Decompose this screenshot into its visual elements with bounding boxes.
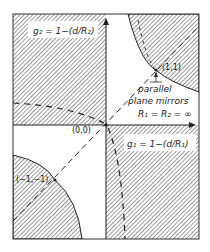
- unstable-region-bottom-left: [13, 155, 82, 239]
- pos-one-label: (1,1): [162, 63, 181, 72]
- point-origin: [104, 123, 107, 126]
- annotation-line2: plane mirrors: [127, 96, 189, 106]
- unstable-region-top-right: [128, 14, 199, 92]
- stability-diagram: g₂ = 1−(d/R₂) g₁ = 1−(d/R₁) (0,0) (1,1) …: [0, 0, 210, 252]
- annotation-line1: parallel: [137, 84, 172, 94]
- neg-one-label: (−1,−1): [16, 175, 48, 184]
- x-axis-label: g₁ = 1−(d/R₁): [127, 139, 188, 149]
- origin-label: (0,0): [72, 126, 91, 135]
- point-neg-one: [53, 178, 56, 181]
- y-axis-label: g₂ = 1−(d/R₂): [33, 26, 94, 36]
- annotation-line3: R₁ = R₂ = ∞: [138, 109, 192, 119]
- point-pos-one: [154, 68, 157, 71]
